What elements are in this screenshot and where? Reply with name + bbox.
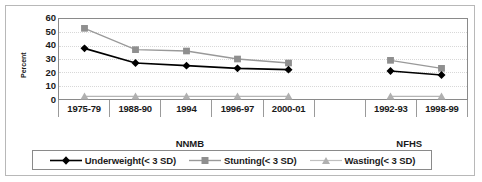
data-point-marker (234, 56, 241, 63)
line-diamond-marker-icon (49, 155, 83, 166)
series-line (391, 60, 442, 68)
legend-item-wasting[interactable]: Wasting(< 3 SD) (309, 155, 416, 166)
x-category-cell: 1994 (161, 100, 212, 117)
y-tick-20: 20 (45, 68, 56, 78)
legend-item-stunting[interactable]: Stunting(< 3 SD) (188, 155, 297, 166)
x-axis-category-row: 1975-79 1988-90 1994 1996-97 2000-01 199… (58, 100, 468, 117)
y-tick-0: 0 (51, 95, 56, 105)
series-plot-svg (59, 19, 467, 99)
line-square-marker-icon (188, 155, 222, 166)
y-tick-10: 10 (45, 82, 56, 92)
y-tick-60: 60 (45, 13, 56, 23)
legend-label-wasting: Wasting(< 3 SD) (345, 155, 416, 166)
x-category-cell: 2000-01 (264, 100, 315, 117)
y-tick-40: 40 (45, 41, 56, 51)
data-point-marker (183, 48, 190, 55)
plot-wrapper: Percent 60 50 40 30 20 10 0 1975-79 1988… (10, 10, 472, 125)
series-line (391, 71, 442, 75)
line-triangle-marker-icon (309, 155, 343, 166)
y-tick-30: 30 (45, 54, 56, 64)
x-category-cell: 1992-93 (366, 100, 417, 117)
chart-figure: Percent 60 50 40 30 20 10 0 1975-79 1988… (0, 0, 482, 182)
data-point-marker (387, 57, 394, 64)
data-point-marker (131, 59, 139, 67)
group-label-nnmb: NNMB (68, 136, 312, 151)
data-point-marker (132, 46, 139, 53)
y-axis-tick-labels: 60 50 40 30 20 10 0 (32, 18, 58, 100)
data-point-marker (182, 62, 190, 70)
data-point-marker (386, 67, 394, 75)
data-point-marker (285, 60, 292, 67)
group-label-nfhs: NFHS (361, 136, 459, 151)
data-point-marker (284, 66, 292, 74)
data-point-marker (80, 44, 88, 52)
y-tick-50: 50 (45, 27, 56, 37)
x-category-cell: 1996-97 (212, 100, 263, 117)
legend-label-underweight: Underweight(< 3 SD) (85, 155, 176, 166)
x-category-cell-spacer (315, 100, 366, 117)
x-axis-group-row: NNMB NFHS (68, 136, 458, 151)
legend-label-stunting: Stunting(< 3 SD) (224, 155, 297, 166)
plot-area (58, 18, 468, 100)
x-category-cell: 1988-90 (110, 100, 161, 117)
data-point-marker (81, 25, 88, 32)
data-point-marker (438, 65, 445, 72)
x-category-cell: 1975-79 (59, 100, 110, 117)
data-point-marker (437, 71, 445, 79)
data-point-marker (233, 64, 241, 72)
legend-item-underweight[interactable]: Underweight(< 3 SD) (49, 155, 176, 166)
x-category-cell: 1998-99 (417, 100, 468, 117)
y-axis-title: Percent (16, 40, 30, 90)
chart-legend: Underweight(< 3 SD) Stunting(< 3 SD) Was… (32, 150, 432, 170)
